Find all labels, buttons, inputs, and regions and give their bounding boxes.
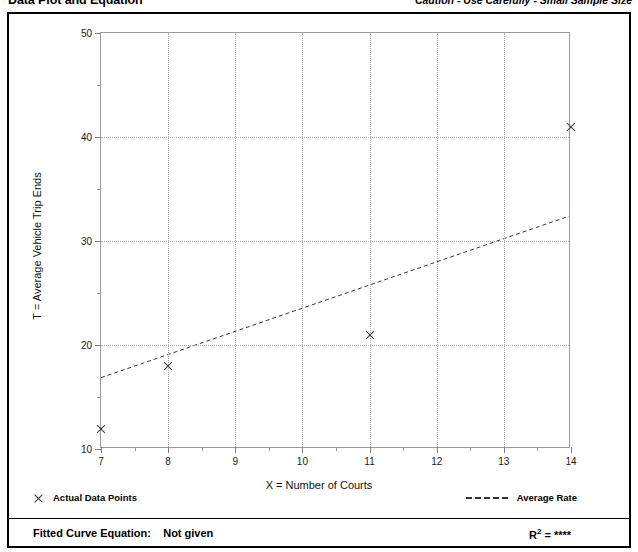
- page-title: Data Plot and Equation: [8, 0, 143, 7]
- x-axis-tick-label: 13: [498, 456, 509, 467]
- y-axis-tick: [95, 241, 101, 242]
- gridline-horizontal: [101, 345, 569, 346]
- y-axis-tick-label: 30: [81, 236, 92, 247]
- y-axis-tick-label: 40: [81, 132, 92, 143]
- x-axis-tick-minor: [202, 447, 203, 451]
- gridline-vertical: [168, 33, 169, 447]
- gridline-vertical: [235, 33, 236, 447]
- gridline-vertical: [504, 33, 505, 447]
- y-axis-tick-minor: [97, 189, 101, 190]
- x-axis-tick: [235, 447, 236, 453]
- legend-label-average-rate: Average Rate: [517, 492, 577, 503]
- gridline-horizontal: [101, 137, 569, 138]
- r-squared-number: ****: [554, 529, 571, 541]
- x-axis-tick-label: 7: [98, 456, 104, 467]
- x-axis-tick-minor: [470, 447, 471, 451]
- x-axis-tick-label: 9: [233, 456, 239, 467]
- legend-label-data-points: Actual Data Points: [53, 492, 137, 503]
- x-marker-icon: [33, 492, 44, 503]
- r-squared-equals: =: [541, 529, 554, 541]
- x-axis-tick-label: 10: [297, 456, 308, 467]
- y-axis-tick: [95, 137, 101, 138]
- x-axis-tick: [302, 447, 303, 453]
- legend-item-average-rate: Average Rate: [466, 492, 577, 503]
- x-axis-tick-minor: [135, 447, 136, 451]
- y-axis-tick-minor: [97, 293, 101, 294]
- x-axis-tick-label: 8: [165, 456, 171, 467]
- y-axis-tick-label: 20: [81, 340, 92, 351]
- legend-item-data-points: Actual Data Points: [33, 492, 137, 503]
- gridline-horizontal: [101, 241, 569, 242]
- x-axis-tick-minor: [336, 447, 337, 451]
- fitted-curve-equation: Fitted Curve Equation: Not given: [33, 527, 213, 539]
- x-axis-tick-minor: [269, 447, 270, 451]
- chart-card: T = Average Vehicle Trip Ends X = Number…: [7, 12, 631, 548]
- fitted-curve-equation-value: Not given: [163, 527, 213, 539]
- dashed-line-icon: [466, 497, 508, 499]
- x-axis-tick-label: 14: [565, 456, 576, 467]
- gridline-vertical: [370, 33, 371, 447]
- y-axis-tick: [95, 449, 101, 450]
- r-squared-label: R: [529, 529, 537, 541]
- x-axis-tick: [370, 447, 371, 453]
- y-axis-tick-label: 10: [81, 444, 92, 455]
- r-squared-value: R2 = ****: [529, 527, 571, 541]
- plot-frame: 78910111213141020304050: [100, 32, 570, 448]
- x-axis-tick: [168, 447, 169, 453]
- x-axis-tick-label: 11: [364, 456, 374, 467]
- y-axis-tick-minor: [97, 397, 101, 398]
- x-axis-tick: [101, 447, 102, 453]
- average-rate-line: [101, 33, 569, 447]
- x-axis-tick-label: 12: [431, 456, 442, 467]
- fitted-curve-equation-label: Fitted Curve Equation:: [33, 527, 151, 539]
- page-header: Data Plot and Equation Caution - Use Car…: [0, 0, 638, 12]
- y-axis-title: T = Average Vehicle Trip Ends: [31, 172, 43, 319]
- gridline-vertical: [437, 33, 438, 447]
- caution-note: Caution - Use Carefully - Small Sample S…: [415, 0, 632, 6]
- y-axis-tick: [95, 33, 101, 34]
- chart-footer: Fitted Curve Equation: Not given R2 = **…: [9, 518, 629, 548]
- plot-area: T = Average Vehicle Trip Ends X = Number…: [9, 14, 629, 484]
- x-axis-tick-minor: [403, 447, 404, 451]
- gridline-vertical: [302, 33, 303, 447]
- x-axis-tick: [437, 447, 438, 453]
- y-axis-tick-label: 50: [81, 28, 92, 39]
- chart-legend: Actual Data Points Average Rate: [9, 484, 629, 518]
- y-axis-tick: [95, 345, 101, 346]
- x-axis-tick: [504, 447, 505, 453]
- x-axis-tick: [571, 447, 572, 453]
- y-axis-tick-minor: [97, 85, 101, 86]
- x-axis-tick-minor: [537, 447, 538, 451]
